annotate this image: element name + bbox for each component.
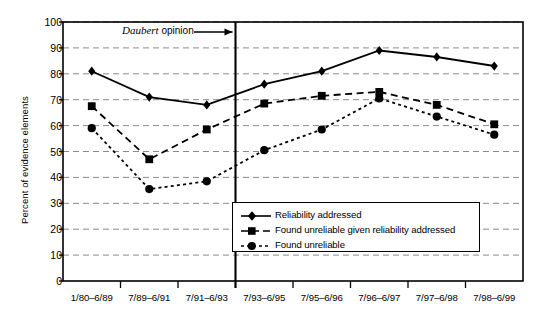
legend-item-reliability-addressed: Reliability addressed (241, 207, 361, 221)
chart-legend: Reliability addressed Found unreliable g… (232, 202, 480, 252)
data-point-circle-3 (260, 146, 268, 154)
x-tick-label-1: 7/89–6/91 (128, 292, 170, 303)
data-point-circle-1 (145, 185, 153, 193)
data-series-layer (88, 46, 499, 193)
data-point-diamond-3 (261, 80, 268, 89)
x-tick-label-3: 7/93–6/95 (243, 292, 285, 303)
data-point-square-3 (260, 100, 268, 108)
data-point-circle-0 (88, 124, 96, 132)
legend-swatch-diamond-solid-icon (241, 208, 271, 220)
data-point-diamond-6 (433, 52, 440, 61)
data-point-square-6 (433, 101, 441, 109)
daubert-annotation: Daubert opinion (122, 24, 194, 36)
legend-item-found-unreliable: Found unreliable (241, 237, 345, 251)
series-circle (88, 94, 499, 193)
daubert-italic-word: Daubert (122, 24, 159, 36)
data-point-diamond-4 (318, 67, 325, 76)
x-axis-tick-marks (121, 281, 466, 288)
data-point-circle-2 (203, 177, 211, 185)
daubert-rest-word: opinion (159, 25, 194, 36)
data-point-square-7 (490, 120, 498, 128)
data-point-square-1 (145, 155, 153, 163)
legend-label-1: Found unreliable given reliability addre… (275, 224, 455, 235)
x-tick-label-6: 7/97–6/98 (416, 292, 458, 303)
legend-item-found-unreliable-given: Found unreliable given reliability addre… (241, 222, 455, 236)
data-point-diamond-2 (203, 100, 210, 109)
daubert-arrow (194, 28, 233, 35)
data-point-diamond-7 (491, 61, 498, 70)
legend-label-2: Found unreliable (275, 239, 345, 250)
data-point-diamond-5 (376, 46, 383, 55)
x-tick-label-0: 1/80–6/89 (71, 292, 113, 303)
plot-area (0, 0, 537, 329)
x-tick-label-2: 7/91–6/93 (186, 292, 228, 303)
data-point-circle-7 (490, 131, 498, 139)
data-point-circle-4 (318, 125, 326, 133)
data-point-square-2 (203, 126, 211, 134)
x-tick-label-5: 7/96–6/97 (358, 292, 400, 303)
legend-swatch-circle-dotted-icon (241, 238, 271, 250)
x-tick-label-7: 7/98–6/99 (473, 292, 515, 303)
data-point-diamond-1 (146, 93, 153, 102)
data-point-square-4 (318, 92, 326, 100)
chart-figure: Percent of evidence elements 01020304050… (0, 0, 537, 329)
data-point-circle-6 (433, 112, 441, 120)
legend-label-0: Reliability addressed (275, 209, 361, 220)
data-point-diamond-0 (88, 67, 95, 76)
x-tick-label-4: 7/95–6/96 (301, 292, 343, 303)
data-point-square-0 (88, 102, 96, 110)
legend-swatch-square-dashed-icon (241, 223, 271, 235)
data-point-circle-5 (375, 94, 383, 102)
